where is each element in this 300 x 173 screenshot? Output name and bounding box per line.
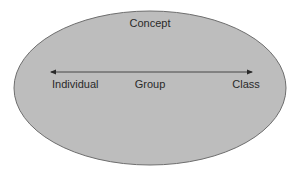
label-class: Class	[232, 79, 260, 90]
concept-diagram: Concept Individual Group Class	[0, 0, 300, 173]
label-individual: Individual	[52, 79, 98, 90]
label-group: Group	[135, 79, 166, 90]
concept-title: Concept	[130, 18, 171, 29]
